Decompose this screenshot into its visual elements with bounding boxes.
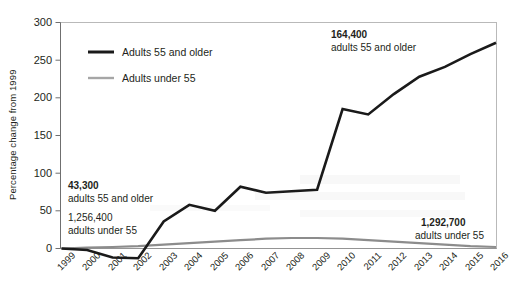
x-tick-2008: 2008: [284, 250, 307, 273]
annotation-right-old-label: adults 55 and older: [331, 42, 417, 53]
y-tick-100: 100: [34, 167, 52, 179]
scan-artifacts: [150, 175, 465, 217]
y-tick-300: 300: [34, 16, 52, 28]
x-tick-2013: 2013: [412, 250, 435, 273]
x-tick-2006: 2006: [233, 250, 256, 273]
line-chart: 300 250 200 150 100 50 0 Percentage chan…: [0, 0, 525, 294]
annotation-left-young: 1,256,400 adults under 55: [68, 212, 137, 236]
y-axis-label: Percentage change from 1999: [7, 69, 18, 200]
x-tick-2015: 2015: [463, 250, 486, 273]
x-tick-2004: 2004: [182, 250, 205, 273]
annotation-right-old-value: 164,400: [331, 29, 368, 40]
y-tick-0: 0: [46, 242, 52, 254]
x-tick-2009: 2009: [310, 250, 333, 273]
x-tick-2007: 2007: [259, 250, 282, 273]
y-tick-250: 250: [34, 54, 52, 66]
annotation-left-young-label: adults under 55: [68, 225, 137, 236]
x-tick-2003: 2003: [157, 250, 180, 273]
x-tick-2010: 2010: [335, 250, 358, 273]
x-tick-2014: 2014: [437, 250, 460, 273]
x-tick-labels: 1999 2000 2001 2002 2003 2004 2005 2006 …: [55, 250, 511, 273]
annotation-right-young: 1,292,700 adults under 55: [415, 217, 484, 241]
chart-legend: Adults 55 and older Adults under 55: [88, 46, 213, 84]
x-tick-2005: 2005: [208, 250, 231, 273]
annotation-right-young-value: 1,292,700: [421, 217, 466, 228]
y-tick-150: 150: [34, 129, 52, 141]
x-tick-1999: 1999: [55, 250, 78, 273]
x-tick-2012: 2012: [386, 250, 409, 273]
y-tick-200: 200: [34, 91, 52, 103]
legend-label-adults-55-and-older: Adults 55 and older: [122, 46, 213, 58]
annotation-left-old-label: adults 55 and older: [68, 193, 154, 204]
x-tick-2011: 2011: [361, 250, 383, 272]
annotation-right-old: 164,400 adults 55 and older: [331, 29, 417, 53]
x-tick-2016: 2016: [488, 250, 511, 273]
y-axis-ticks: [56, 23, 61, 249]
annotation-right-young-label: adults under 55: [415, 230, 484, 241]
annotation-left-young-value: 1,256,400: [68, 212, 113, 223]
annotation-left-old-value: 43,300: [68, 180, 99, 191]
y-tick-labels: 300 250 200 150 100 50 0: [34, 16, 52, 254]
x-tick-2001: 2001: [106, 250, 129, 273]
chart-container: 300 250 200 150 100 50 0 Percentage chan…: [0, 0, 525, 294]
legend-label-adults-under-55: Adults under 55: [122, 72, 196, 84]
annotation-left-old: 43,300 adults 55 and older: [68, 180, 154, 204]
y-tick-50: 50: [40, 204, 52, 216]
